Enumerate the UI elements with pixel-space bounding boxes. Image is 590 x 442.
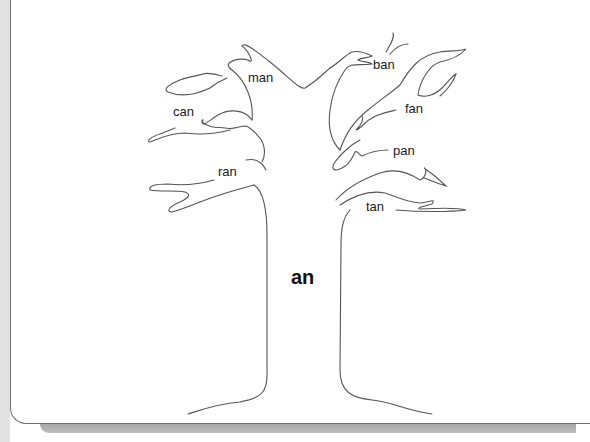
word-ran: ran — [218, 164, 237, 179]
word-fan: fan — [405, 101, 423, 116]
trunk-right — [340, 210, 432, 414]
word-can: can — [173, 104, 194, 119]
word-family-label: an — [291, 266, 314, 289]
word-pan: pan — [393, 143, 415, 158]
word-man: man — [248, 70, 273, 85]
trunk-left — [188, 185, 267, 414]
word-tan: tan — [366, 199, 384, 214]
word-ban: ban — [373, 57, 395, 72]
